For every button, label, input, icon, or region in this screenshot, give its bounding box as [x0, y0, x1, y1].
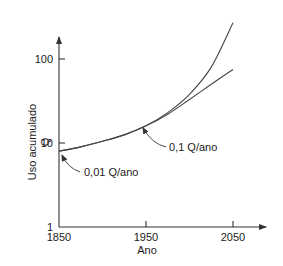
- x-tick-label: 1950: [134, 231, 158, 243]
- annotation-arrow: [62, 155, 80, 172]
- x-axis-label: Ano: [137, 244, 157, 256]
- annotation-group: 0,01 Q/ano0,1 Q/ano: [62, 128, 217, 178]
- x-ticks: 185019502050: [47, 221, 245, 243]
- annotation-arrow: [143, 128, 166, 147]
- series-line-linear-tangent: [59, 69, 233, 151]
- y-axis-label: Uso acumulado: [26, 104, 38, 180]
- x-tick-label: 2050: [221, 231, 245, 243]
- annotation-label: 0,1 Q/ano: [169, 141, 217, 153]
- y-axis-title: Uso acumulado Q: [26, 104, 51, 180]
- y-axis-unit: Q: [39, 137, 51, 146]
- y-tick-label: 100: [35, 53, 53, 65]
- x-tick-label: 1850: [47, 231, 71, 243]
- axes: [59, 37, 266, 227]
- chart: 110100 185019502050 0,01 Q/ano0,1 Q/ano …: [0, 0, 283, 266]
- annotation-label: 0,01 Q/ano: [84, 166, 138, 178]
